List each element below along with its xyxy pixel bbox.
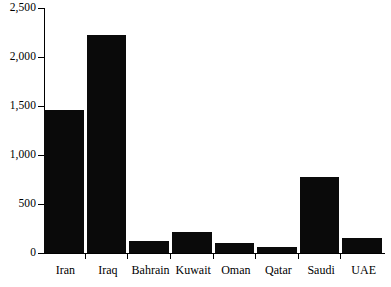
bar-saudi (300, 177, 340, 253)
x-axis-tick (213, 254, 214, 259)
x-axis-tick (85, 254, 86, 259)
y-axis-tick-label: 1,500 (0, 100, 36, 112)
bar-uae (342, 238, 382, 253)
bar-kuwait (172, 232, 212, 253)
x-axis-tick (340, 254, 341, 259)
x-axis-label-uae: UAE (334, 263, 391, 277)
bar-iraq (87, 35, 127, 253)
y-axis-tick-label: 500 (0, 198, 36, 210)
bar-chart: 05001,0001,5002,0002,500 IranIraqBahrain… (0, 0, 391, 287)
y-axis-tick (38, 253, 44, 254)
y-axis-tick-label: 2,500 (0, 2, 36, 14)
plot-area (44, 8, 385, 253)
x-axis-tick (170, 254, 171, 259)
x-axis-line (44, 253, 385, 254)
bar-oman (215, 243, 255, 253)
y-axis-tick-label: 0 (0, 247, 36, 259)
bar-iran (44, 110, 84, 253)
bar-bahrain (129, 241, 169, 253)
x-axis-tick (127, 254, 128, 259)
y-axis-tick-label: 2,000 (0, 51, 36, 63)
bar-qatar (257, 247, 297, 253)
y-axis-tick-label: 1,000 (0, 149, 36, 161)
x-axis-tick (298, 254, 299, 259)
x-axis-tick (255, 254, 256, 259)
